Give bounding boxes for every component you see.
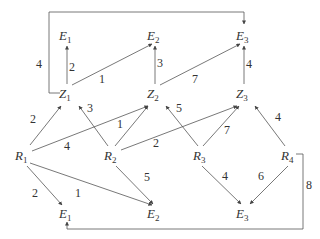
weight-r1-e2: 1 bbox=[75, 186, 81, 200]
node-z3: Z3 bbox=[236, 86, 248, 103]
weight-z2-e3: 7 bbox=[192, 72, 198, 86]
weight-r4-z3: 4 bbox=[275, 110, 281, 124]
weight-r2-z3: 2 bbox=[153, 136, 159, 150]
node-e1-top: E1 bbox=[58, 28, 71, 45]
weight-r2-e2: 5 bbox=[144, 170, 150, 184]
edge-r2-z1 bbox=[79, 106, 108, 146]
node-z2: Z2 bbox=[147, 86, 159, 103]
weight-z1-e1: 2 bbox=[69, 60, 75, 74]
weight-r2-z1: 3 bbox=[87, 101, 93, 115]
network-diagram: E1 E2 E3 Z1 Z2 Z3 R1 R2 R3 R4 E1 E2 E3 2… bbox=[0, 0, 320, 239]
edge-r4-e3 bbox=[250, 166, 288, 204]
edge-z2-e3 bbox=[160, 44, 240, 85]
node-r1: R1 bbox=[14, 148, 27, 165]
weight-r3-z2: 5 bbox=[176, 101, 182, 115]
weight-r1-z1: 2 bbox=[30, 112, 36, 126]
edge-z1-e2 bbox=[72, 44, 152, 85]
weight-z1-e2: 1 bbox=[99, 72, 105, 86]
node-e1-bottom: E1 bbox=[58, 206, 71, 223]
node-e3-bottom: E3 bbox=[235, 206, 249, 223]
node-r3: R3 bbox=[192, 148, 206, 165]
node-e2-top: E2 bbox=[146, 28, 159, 45]
node-z1: Z1 bbox=[59, 86, 71, 103]
weight-r3-z3: 7 bbox=[224, 123, 230, 137]
weight-z1-e3-loop: 4 bbox=[36, 57, 42, 71]
edge-r4-e1-loop bbox=[67, 154, 303, 229]
weight-r1-z2: 4 bbox=[64, 139, 70, 153]
weight-r3-e3: 4 bbox=[222, 169, 228, 183]
edge-z1-e3-loop bbox=[49, 12, 244, 93]
edge-r3-z2 bbox=[166, 106, 198, 146]
node-r2: R2 bbox=[103, 148, 116, 165]
node-r4: R4 bbox=[280, 148, 294, 165]
node-e3-top: E3 bbox=[235, 28, 249, 45]
node-e2-bottom: E2 bbox=[146, 206, 159, 223]
edge-weights: 2 1 4 3 7 4 2 4 3 1 2 5 7 4 2 1 5 4 6 8 bbox=[30, 56, 312, 200]
weight-z2-e2: 3 bbox=[157, 56, 163, 70]
weight-r4-e3: 6 bbox=[258, 169, 264, 183]
weight-r1-e1: 2 bbox=[32, 186, 38, 200]
weight-r4-e1-loop: 8 bbox=[306, 178, 312, 192]
weight-z3-e3: 4 bbox=[246, 57, 252, 71]
weight-r2-z2: 1 bbox=[117, 117, 123, 131]
